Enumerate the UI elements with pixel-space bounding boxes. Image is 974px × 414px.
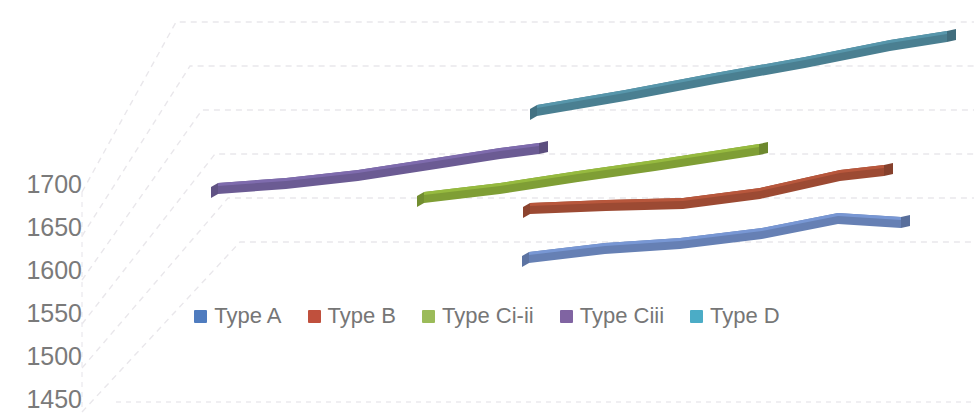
legend-label-type-d: Type D [710, 303, 780, 329]
series-ribbon-type-d [530, 29, 956, 120]
legend-item-type-ci-ii[interactable]: Type Ci-ii [422, 303, 534, 329]
chart-series-layer [0, 0, 974, 414]
legend-swatch-type-a [194, 310, 207, 323]
legend-item-type-ciii[interactable]: Type Ciii [560, 303, 664, 329]
chart-legend: Type A Type B Type Ci-ii Type Ciii Type … [0, 303, 974, 329]
ribbon-top-face [537, 31, 947, 108]
ribbon-top-face [218, 143, 539, 186]
chart-3d-line: .gl{stroke:#e9e7eb;stroke-width:1.4;fill… [0, 0, 974, 414]
legend-item-type-b[interactable]: Type B [308, 303, 396, 329]
ribbon-top-face [424, 144, 759, 195]
ribbon-end-cap [539, 141, 548, 154]
ribbon-start-cap [530, 105, 537, 120]
ribbon-start-cap [522, 252, 529, 267]
legend-item-type-d[interactable]: Type D [690, 303, 780, 329]
legend-label-type-ci-ii: Type Ci-ii [442, 303, 534, 329]
ribbon-start-cap [523, 203, 530, 218]
legend-swatch-type-ci-ii [422, 310, 435, 323]
legend-label-type-b: Type B [328, 303, 396, 329]
ribbon-end-cap [947, 29, 956, 42]
legend-label-type-ciii: Type Ciii [580, 303, 664, 329]
legend-swatch-type-b [308, 310, 321, 323]
series-ribbon-type-a [522, 213, 910, 267]
legend-label-type-a: Type A [214, 303, 281, 329]
ribbon-end-cap [884, 163, 893, 176]
ribbon-end-cap [759, 142, 768, 155]
ribbon-start-cap [211, 183, 218, 198]
ribbon-body [529, 213, 901, 263]
legend-swatch-type-d [690, 310, 703, 323]
legend-item-type-a[interactable]: Type A [194, 303, 281, 329]
legend-swatch-type-ciii [560, 310, 573, 323]
ribbon-end-cap [901, 215, 910, 228]
ribbon-start-cap [417, 192, 424, 207]
